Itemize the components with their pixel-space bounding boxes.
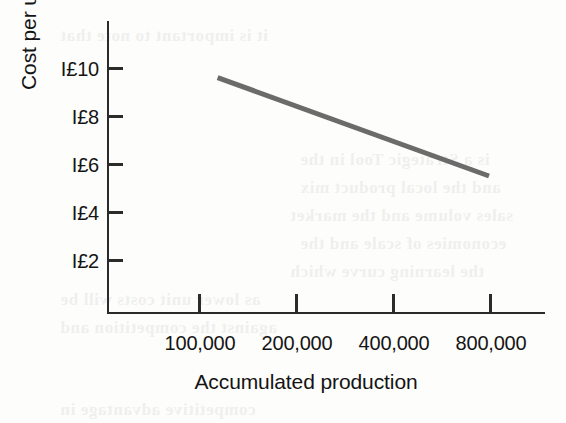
x-tick-label: 400,000 bbox=[359, 332, 430, 355]
y-axis-line bbox=[107, 21, 109, 314]
x-axis-title-text: Accumulated production bbox=[148, 370, 417, 393]
y-tick-label: I£4 bbox=[72, 201, 99, 224]
x-tick-label: 200,000 bbox=[262, 332, 333, 355]
y-tick-mark bbox=[109, 211, 123, 214]
y-tick-mark bbox=[109, 163, 123, 166]
y-tick-mark bbox=[109, 259, 123, 262]
y-tick-label: I£2 bbox=[72, 249, 99, 272]
figure-page: is a Strategic Tool in the and the local… bbox=[0, 0, 566, 423]
x-axis-line bbox=[107, 312, 545, 314]
y-tick-label: I£10 bbox=[61, 57, 99, 80]
x-axis-title: Accumulated production bbox=[0, 370, 566, 394]
x-tick-label: 800,000 bbox=[456, 332, 527, 355]
y-tick-label: I£8 bbox=[72, 105, 99, 128]
x-tick-mark bbox=[392, 294, 395, 313]
cost-curve-line bbox=[218, 78, 489, 176]
x-tick-mark bbox=[489, 294, 492, 313]
y-tick-mark bbox=[109, 67, 123, 70]
y-axis-title: Cost per unit bbox=[17, 0, 41, 90]
y-tick-label: I£6 bbox=[72, 153, 99, 176]
x-tick-label: 100,000 bbox=[165, 332, 236, 355]
x-tick-mark bbox=[295, 294, 298, 313]
x-tick-mark bbox=[198, 294, 201, 313]
y-tick-mark bbox=[109, 115, 123, 118]
